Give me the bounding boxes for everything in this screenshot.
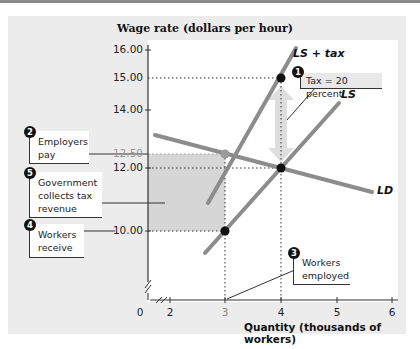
x-tick-4: 4 xyxy=(271,306,291,318)
x-tick-5: 5 xyxy=(327,306,347,318)
x-tick-2: 2 xyxy=(160,306,180,318)
y-tick-14: 14.00 xyxy=(99,103,143,115)
badge-5: 5 xyxy=(24,167,36,179)
badge-3: 3 xyxy=(288,247,300,259)
callout-government-line3: revenue xyxy=(38,202,96,215)
x-axis-title: Quantity (thousands of workers) xyxy=(244,321,420,345)
callout-workers-employed: Workers employed xyxy=(293,252,350,285)
badge-2: 2 xyxy=(24,126,36,138)
callout-employers-pay-line2: pay xyxy=(38,148,83,161)
x-tick-6: 6 xyxy=(382,306,402,318)
callout-employers-pay-line1: Employers xyxy=(38,135,83,148)
y-tick-16: 16.00 xyxy=(99,43,143,55)
point-4-12 xyxy=(277,164,286,173)
callout-workers-receive-line1: Workers xyxy=(38,228,78,241)
callout-government-line2: collects tax xyxy=(38,189,96,202)
ls-label: LS xyxy=(341,88,356,101)
ld-label: LD xyxy=(377,184,393,197)
badge-1: 1 xyxy=(292,66,304,78)
tax-arrow xyxy=(268,86,294,162)
callout-employers-pay: Employers pay xyxy=(29,131,89,164)
callout-tax-rate: Tax = 20 percent xyxy=(300,73,382,89)
y-axis-title: Wage rate (dollars per hour) xyxy=(117,22,293,35)
x-tick-0: 0 xyxy=(130,306,150,318)
x-tick-3: 3 xyxy=(215,306,235,318)
point-4-15 xyxy=(277,74,286,83)
y-tick-15: 15.00 xyxy=(99,71,143,83)
point-3-10 xyxy=(221,227,230,236)
callout-workers-employed-line1: Workers xyxy=(302,256,344,269)
callout-government-line1: Government xyxy=(38,176,96,189)
callout-workers-receive-line2: receive xyxy=(38,241,78,254)
y-tick-10: 10.00 xyxy=(99,224,143,236)
ls-plus-tax-label: LS + tax xyxy=(293,47,345,60)
callout-government-revenue: Government collects tax revenue xyxy=(29,172,102,218)
callout-workers-receive: Workers receive xyxy=(29,224,84,258)
callout-tax-rate-text: Tax = 20 percent xyxy=(306,75,348,99)
point-3-12-5 xyxy=(221,150,230,159)
y-tick-12: 12.00 xyxy=(99,161,143,173)
y-tick-12-50: 12.50 xyxy=(99,147,143,159)
callout-workers-employed-line2: employed xyxy=(302,269,344,282)
badge-4: 4 xyxy=(24,219,36,231)
